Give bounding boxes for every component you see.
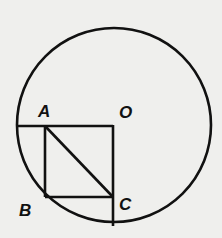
segment-ac (45, 126, 113, 197)
label-o: O (119, 103, 132, 122)
label-b: B (19, 201, 31, 220)
label-c: C (119, 195, 132, 214)
label-a: A (37, 102, 50, 121)
geometry-diagram: A O B C (0, 0, 222, 238)
